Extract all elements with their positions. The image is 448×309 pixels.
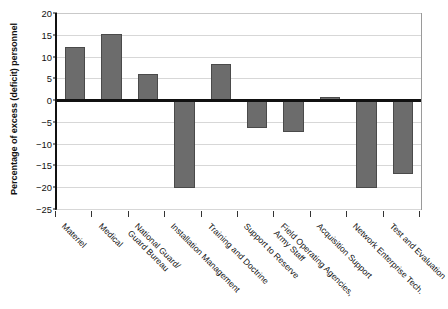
bar (101, 34, 121, 100)
x-tick-mark (201, 211, 202, 217)
bar (65, 47, 85, 100)
x-tick-mark (55, 211, 56, 217)
y-tick-label: −5 (41, 116, 52, 127)
bar (138, 74, 158, 101)
y-tick-label: 5 (47, 73, 52, 84)
y-tick-label: −10 (36, 138, 52, 149)
x-tick-label: Medical (97, 221, 125, 249)
y-tick-label: −20 (36, 182, 52, 193)
y-axis-title: Percentage of excess (deficit) personnel (9, 9, 19, 209)
x-tick-mark (310, 211, 311, 217)
bar (356, 100, 376, 188)
y-tick-label: 10 (42, 51, 52, 62)
x-tick-mark (273, 211, 274, 217)
bar (211, 64, 231, 101)
bars-layer (57, 13, 421, 209)
x-tick-mark (383, 211, 384, 217)
x-tick-label: Materiel (60, 221, 89, 250)
bar (247, 100, 267, 127)
y-tick-label: 15 (42, 29, 52, 40)
plot-area: 20151050−5−10−15−20−25 (55, 13, 422, 210)
bar (283, 100, 303, 132)
x-tick-mark (164, 211, 165, 217)
bar (174, 100, 194, 188)
zero-line (57, 99, 421, 102)
x-tick-mark (419, 211, 420, 217)
y-tick-label: 0 (47, 95, 52, 106)
x-tick-mark (346, 211, 347, 217)
x-tick-mark (128, 211, 129, 217)
y-tick-label: −25 (36, 204, 52, 215)
y-tick-label: −15 (36, 160, 52, 171)
gridline (57, 209, 421, 210)
x-tick-mark (237, 211, 238, 217)
y-tick-label: 20 (42, 8, 52, 19)
x-tick-label: Training and Doctrine (206, 221, 271, 286)
bar (393, 100, 413, 174)
x-tick-label: Installation Management (169, 221, 242, 294)
x-tick-mark (91, 211, 92, 217)
x-tick-label: Network Enterprise Tech. (351, 221, 426, 296)
